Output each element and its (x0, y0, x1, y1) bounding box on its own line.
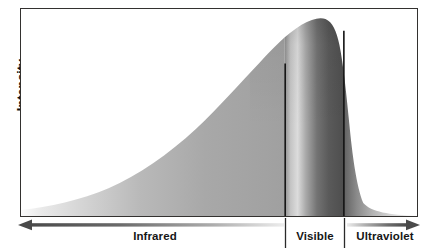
spectrum-figure: Intensity (0, 0, 426, 249)
right-arrow-icon (347, 220, 420, 231)
left-arrow-icon (18, 220, 284, 231)
spectrum-curve-svg (21, 9, 417, 216)
plot-frame (20, 8, 418, 217)
band-label-infrared: Infrared (95, 230, 215, 242)
band-label-visible: Visible (286, 230, 344, 242)
curve-fill-group (21, 9, 417, 216)
band-axis-strip: Infrared Visible Ultraviolet (0, 217, 426, 249)
band-label-ultraviolet: Ultraviolet (346, 230, 424, 242)
